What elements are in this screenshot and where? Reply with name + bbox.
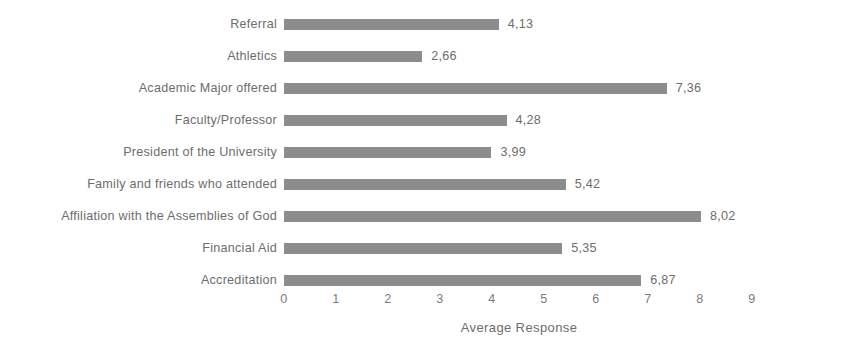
bar-value-label: 7,36 <box>676 72 702 104</box>
bar-row: President of the University3,99 <box>0 136 858 168</box>
x-tick-label: 8 <box>685 292 715 306</box>
x-tick-label: 0 <box>269 292 299 306</box>
category-label: Athletics <box>0 40 277 72</box>
bar <box>284 83 667 94</box>
bar-row: Affiliation with the Assemblies of God8,… <box>0 200 858 232</box>
category-label: President of the University <box>0 136 277 168</box>
bar <box>284 179 566 190</box>
x-tick-label: 4 <box>477 292 507 306</box>
bar-row: Family and friends who attended5,42 <box>0 168 858 200</box>
x-axis-title: Average Response <box>0 320 858 335</box>
x-tick-label: 5 <box>529 292 559 306</box>
plot-area: Referral4,13Athletics2,66Academic Major … <box>0 0 858 294</box>
bar-value-label: 2,66 <box>431 40 457 72</box>
bar-row: Referral4,13 <box>0 8 858 40</box>
bar-row: Financial Aid5,35 <box>0 232 858 264</box>
x-tick-label: 7 <box>633 292 663 306</box>
x-axis: 0123456789 <box>0 292 858 316</box>
bar <box>284 51 422 62</box>
bar-value-label: 4,28 <box>516 104 542 136</box>
bar <box>284 243 562 254</box>
bar-chart: Referral4,13Athletics2,66Academic Major … <box>0 0 858 360</box>
bar <box>284 275 641 286</box>
category-label: Financial Aid <box>0 232 277 264</box>
bar <box>284 147 491 158</box>
x-tick-label: 1 <box>321 292 351 306</box>
category-label: Affiliation with the Assemblies of God <box>0 200 277 232</box>
category-label: Faculty/Professor <box>0 104 277 136</box>
x-tick-label: 2 <box>373 292 403 306</box>
bar-row: Faculty/Professor4,28 <box>0 104 858 136</box>
x-tick-label: 3 <box>425 292 455 306</box>
category-label: Family and friends who attended <box>0 168 277 200</box>
category-label: Academic Major offered <box>0 72 277 104</box>
x-tick-label: 9 <box>737 292 767 306</box>
x-axis-title-text: Average Response <box>461 320 578 335</box>
category-label: Referral <box>0 8 277 40</box>
bar-value-label: 8,02 <box>710 200 736 232</box>
bar-row: Athletics2,66 <box>0 40 858 72</box>
bar-value-label: 5,42 <box>575 168 601 200</box>
bar-value-label: 4,13 <box>508 8 534 40</box>
bar-row: Academic Major offered7,36 <box>0 72 858 104</box>
bar-value-label: 5,35 <box>571 232 597 264</box>
bar <box>284 211 701 222</box>
x-tick-label: 6 <box>581 292 611 306</box>
bar <box>284 19 499 30</box>
bar-value-label: 3,99 <box>500 136 526 168</box>
bar <box>284 115 507 126</box>
